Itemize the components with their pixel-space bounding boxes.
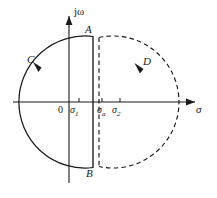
s-plane-diagram: jω σ 0 σ1 σa σ2 A B C D [0,0,217,198]
tick-label-sigma-a-sub: a [102,110,106,118]
point-label-b: B [86,168,93,179]
tick-label-sigma2: σ2 [112,105,120,118]
sigma-axis-label: σ [196,104,201,115]
jomega-axis [66,16,73,183]
point-label-a: A [85,24,92,35]
origin-label: 0 [58,105,63,115]
point-label-d: D [143,56,151,67]
jomega-axis-label: jω [74,6,84,17]
diagram-canvas [0,0,217,198]
tick-label-sigma1: σ1 [70,105,78,118]
tick-label-sigma2-sub: 2 [117,110,121,118]
point-label-c: C [27,54,34,65]
tick-label-sigma1-sub: 1 [75,110,79,118]
sigma-axis-arrowhead [186,99,195,106]
jomega-axis-arrowhead [66,16,73,25]
tick-label-sigma-a: σa [97,105,105,118]
